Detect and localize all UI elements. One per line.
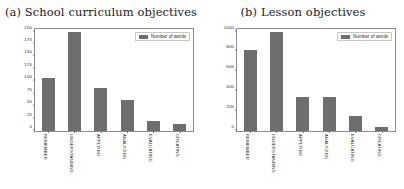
x-tick-label: APPLYING (298, 134, 303, 156)
y-tick-label: 175 (24, 36, 32, 41)
y-tick-mark (235, 110, 237, 111)
legend-swatch-icon (139, 35, 148, 39)
panel-b-legend: Number of words (337, 32, 392, 41)
chart-panel-a: (a) School curriculum objectives REMEMBE… (0, 0, 202, 189)
x-tick-mark (153, 131, 154, 133)
y-tick-label: 1000 (224, 24, 234, 29)
panel-a-legend: Number of words (135, 32, 190, 41)
bar (270, 32, 283, 131)
y-tick-label: 400 (226, 84, 234, 89)
y-tick-mark (235, 30, 237, 31)
x-tick-mark (355, 131, 356, 133)
x-tick-label: UNDERSTANDING (271, 134, 276, 173)
x-tick-mark (276, 131, 277, 133)
y-tick-label: 200 (24, 24, 32, 29)
y-tick-mark (33, 67, 35, 68)
y-tick-label: 600 (226, 64, 234, 69)
y-tick-label: 25 (27, 111, 32, 116)
panel-a-plot: REMEMBERUNDERSTANDINGAPPLYINGANALYZINGEV… (0, 22, 202, 189)
chart-panel-b: (b) Lesson objectives REMEMBERUNDERSTAND… (202, 0, 404, 189)
bar-slot: UNDERSTANDING (263, 29, 289, 131)
y-tick-label: 100 (24, 74, 32, 79)
x-tick-mark (329, 131, 330, 133)
panel-b-title: (b) Lesson objectives (202, 0, 404, 21)
x-tick-mark (74, 131, 75, 133)
y-tick-label: 0 (231, 124, 234, 129)
x-tick-mark (127, 131, 128, 133)
bar (349, 116, 362, 131)
x-tick-label: ANALYZING (122, 134, 127, 159)
y-tick-mark (33, 105, 35, 106)
y-tick-mark (33, 130, 35, 131)
panel-b-axes: REMEMBERUNDERSTANDINGAPPLYINGANALYZINGEV… (236, 28, 396, 132)
bar (296, 97, 309, 131)
panel-a-bars: REMEMBERUNDERSTANDINGAPPLYINGANALYZINGEV… (35, 29, 193, 131)
bar (42, 78, 55, 131)
y-tick-mark (33, 117, 35, 118)
x-tick-mark (180, 131, 181, 133)
y-tick-label: 50 (27, 99, 32, 104)
y-tick-label: 150 (24, 49, 32, 54)
y-tick-mark (235, 90, 237, 91)
x-tick-mark (101, 131, 102, 133)
y-tick-label: 125 (24, 61, 32, 66)
x-tick-label: ANALYZING (324, 134, 329, 159)
y-tick-label: 800 (226, 44, 234, 49)
y-tick-mark (33, 80, 35, 81)
panel-a-title: (a) School curriculum objectives (0, 0, 202, 21)
y-tick-mark (235, 130, 237, 131)
bar (323, 97, 336, 131)
bar (121, 100, 134, 131)
x-tick-label: APPLYING (96, 134, 101, 156)
x-tick-label: UNDERSTANDING (69, 134, 74, 173)
y-tick-mark (33, 92, 35, 93)
x-tick-mark (48, 131, 49, 133)
y-tick-mark (235, 70, 237, 71)
panel-a-axes: REMEMBERUNDERSTANDINGAPPLYINGANALYZINGEV… (34, 28, 194, 132)
bar (244, 50, 257, 131)
bar-slot: REMEMBER (237, 29, 263, 131)
panel-a-legend-label: Number of words (151, 34, 186, 39)
x-tick-label: CREATING (175, 134, 180, 157)
bar (147, 121, 160, 131)
y-tick-label: 0 (29, 124, 32, 129)
panel-b-plot: REMEMBERUNDERSTANDINGAPPLYINGANALYZINGEV… (202, 22, 404, 189)
y-tick-mark (33, 42, 35, 43)
x-tick-label: EVALUATING (148, 134, 153, 162)
bar-slot: ANALYZING (114, 29, 140, 131)
figure-container: (a) School curriculum objectives REMEMBE… (0, 0, 404, 189)
bar-slot: EVALUATING (140, 29, 166, 131)
x-tick-label: REMEMBER (43, 134, 48, 160)
bar-slot: CREATING (167, 29, 193, 131)
x-tick-label: EVALUATING (350, 134, 355, 162)
bar (68, 32, 81, 131)
y-tick-mark (33, 30, 35, 31)
bar-slot: UNDERSTANDING (61, 29, 87, 131)
x-tick-label: CREATING (377, 134, 382, 157)
legend-swatch-icon (341, 35, 350, 39)
x-tick-mark (382, 131, 383, 133)
y-tick-label: 75 (27, 86, 32, 91)
x-tick-mark (250, 131, 251, 133)
bar-slot: APPLYING (88, 29, 114, 131)
panel-b-legend-label: Number of words (353, 34, 388, 39)
bar-slot: ANALYZING (316, 29, 342, 131)
x-tick-label: REMEMBER (245, 134, 250, 160)
bar-slot: APPLYING (290, 29, 316, 131)
y-tick-label: 200 (226, 104, 234, 109)
panel-b-bars: REMEMBERUNDERSTANDINGAPPLYINGANALYZINGEV… (237, 29, 395, 131)
y-tick-mark (33, 55, 35, 56)
bar-slot: CREATING (369, 29, 395, 131)
bar-slot: REMEMBER (35, 29, 61, 131)
y-tick-mark (235, 50, 237, 51)
bar-slot: EVALUATING (342, 29, 368, 131)
bar (94, 88, 107, 131)
bar (173, 124, 186, 131)
x-tick-mark (303, 131, 304, 133)
